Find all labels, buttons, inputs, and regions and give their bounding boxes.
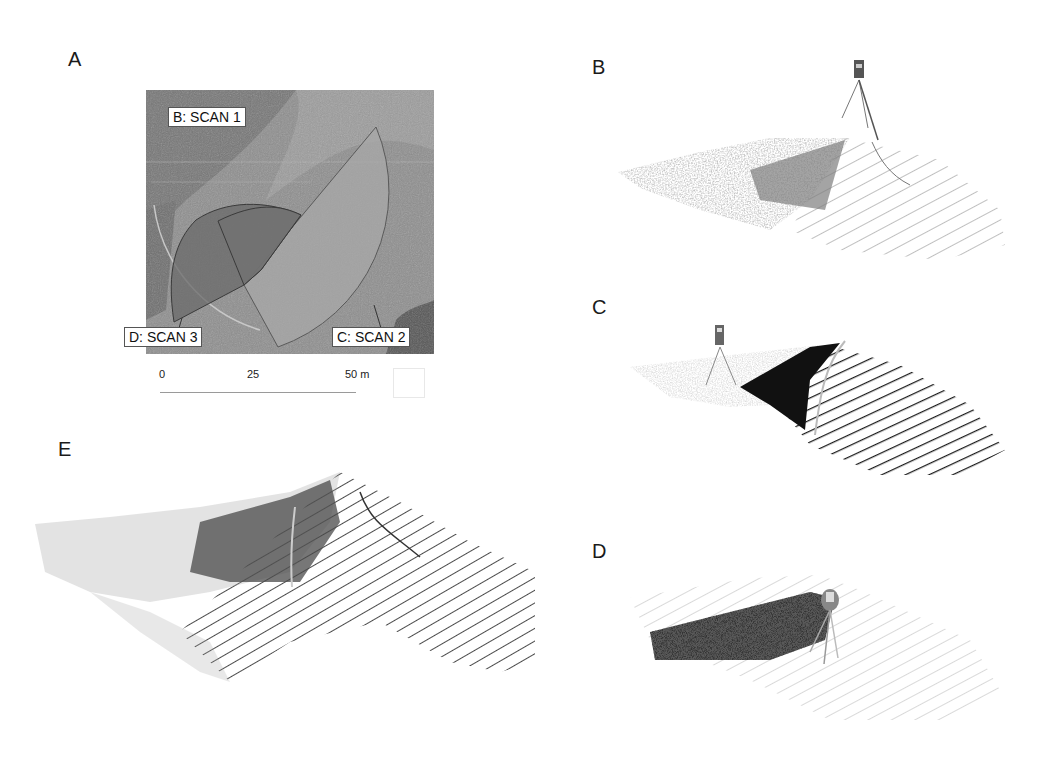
- scan-coverage-map: B: SCAN 1 D: SCAN 3 C: SCAN 2: [146, 90, 434, 354]
- scan2-label: C: SCAN 2: [332, 327, 410, 347]
- point-cloud-scan2: [610, 325, 1020, 485]
- scale-bar: [160, 392, 356, 393]
- north-arrow-placeholder: [393, 368, 425, 398]
- point-cloud-scan1: [610, 60, 1020, 270]
- panel-label-c: C: [592, 296, 606, 319]
- panel-label-b: B: [592, 56, 605, 79]
- laser-scanner-icon: [842, 60, 878, 140]
- scan1-label: B: SCAN 1: [168, 107, 246, 127]
- panel-label-d: D: [592, 540, 606, 563]
- scale-tick-25: 25: [247, 368, 259, 380]
- point-cloud-merged: [30, 462, 570, 712]
- scale-tick-50: 50 m: [345, 368, 369, 380]
- scan3-label: D: SCAN 3: [124, 327, 202, 347]
- point-cloud-scan3: [610, 570, 1020, 730]
- scale-tick-0: 0: [159, 368, 165, 380]
- panel-label-e: E: [58, 438, 71, 461]
- panel-label-a: A: [68, 48, 81, 71]
- map-image: [146, 90, 434, 354]
